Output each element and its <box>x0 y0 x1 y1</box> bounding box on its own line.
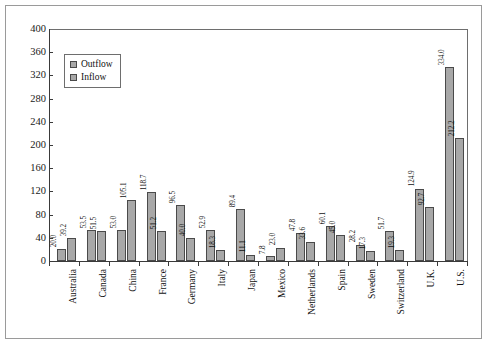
bar-value-label: 19.3 <box>389 236 396 248</box>
bar-value-label: 124.9 <box>409 171 416 187</box>
bar-value-label: 20.0 <box>51 235 58 247</box>
bar-outflow[interactable] <box>117 230 126 261</box>
bar-inflow[interactable] <box>97 231 106 261</box>
bar-inflow[interactable] <box>366 251 375 261</box>
bar-value-label: 45.0 <box>329 221 336 233</box>
x-axis-category-label: Netherlands <box>308 269 318 315</box>
x-axis-tick-mark <box>198 262 199 266</box>
x-axis-category-label: U.K. <box>427 269 437 287</box>
bar-group: 118.751.2 <box>147 29 167 261</box>
y-axis-tick-label: 240 <box>12 117 46 128</box>
bar-group: 52.918.3 <box>206 29 226 261</box>
bar-value-label: 51.2 <box>150 217 157 229</box>
bar-inflow[interactable] <box>336 235 345 261</box>
x-axis-category-label: Australia <box>69 269 79 304</box>
bar-value-label: 89.4 <box>230 195 237 207</box>
bar-outflow[interactable] <box>445 67 454 261</box>
y-axis-tick-label: 400 <box>12 24 46 35</box>
bar-value-label: 7.8 <box>260 246 267 255</box>
bar-group: 89.411.1 <box>236 29 256 261</box>
bar-inflow[interactable] <box>216 250 225 261</box>
bar-value-label: 334.0 <box>439 50 446 66</box>
bar-value-label: 28.2 <box>349 230 356 242</box>
bar-value-label: 53.5 <box>81 216 88 228</box>
bar-group: 124.992.7 <box>415 29 435 261</box>
bar-value-label: 60.1 <box>319 212 326 224</box>
bar-value-label: 40.0 <box>180 224 187 236</box>
x-axis-tick-mark <box>109 262 110 266</box>
x-axis-category-label: Canada <box>99 269 109 298</box>
x-axis-tick-mark <box>407 262 408 266</box>
bar-value-label: 39.2 <box>61 224 68 236</box>
x-axis-category-label: Switzerland <box>397 269 407 314</box>
bar-outflow[interactable] <box>87 230 96 261</box>
bar-inflow[interactable] <box>157 231 166 261</box>
bar-group: 60.145.0 <box>326 29 346 261</box>
bar-inflow[interactable] <box>425 207 434 261</box>
legend-label: Inflow <box>81 71 106 84</box>
x-axis-tick-mark <box>168 262 169 266</box>
y-axis-tick-label: 80 <box>12 209 46 220</box>
bar-outflow[interactable] <box>57 249 66 261</box>
bar-value-label: 96.5 <box>170 191 177 203</box>
x-axis-tick-mark <box>467 262 468 266</box>
x-axis-tick-mark <box>348 262 349 266</box>
bar-value-label: 18.3 <box>210 236 217 248</box>
bar-inflow[interactable] <box>306 242 315 261</box>
bar-value-label: 52.9 <box>200 216 207 228</box>
bar-outflow[interactable] <box>266 256 275 261</box>
x-axis-category-label: Italy <box>218 269 228 286</box>
x-axis-category-label: Japan <box>248 269 258 291</box>
bar-group: 28.217.3 <box>356 29 376 261</box>
bar-inflow[interactable] <box>395 250 404 261</box>
x-axis-tick-mark <box>49 262 50 266</box>
bar-value-label: 105.1 <box>120 182 127 198</box>
bar-group: 7.823.0 <box>266 29 286 261</box>
bar-value-label: 47.8 <box>290 219 297 231</box>
bar-value-label: 51.5 <box>91 217 98 229</box>
bar-inflow[interactable] <box>67 238 76 261</box>
y-axis-tick-label: 280 <box>12 93 46 104</box>
y-axis-tick-label: 200 <box>12 140 46 151</box>
x-axis-tick-mark <box>318 262 319 266</box>
legend-label: Outflow <box>81 58 113 71</box>
bar-group: 96.540.0 <box>176 29 196 261</box>
bar-group: 334.0212.2 <box>445 29 465 261</box>
y-axis-tick-label: 120 <box>12 186 46 197</box>
x-axis-tick-mark <box>139 262 140 266</box>
bar-value-label: 11.1 <box>240 241 247 253</box>
bar-inflow[interactable] <box>276 248 285 261</box>
bar-inflow[interactable] <box>186 238 195 261</box>
y-axis-tick-label: 360 <box>12 47 46 58</box>
bar-value-label: 118.7 <box>140 175 147 190</box>
bar-value-label: 212.2 <box>449 120 456 136</box>
bar-group: 51.719.3 <box>385 29 405 261</box>
bar-group: 47.833.6 <box>296 29 316 261</box>
bar-value-label: 23.0 <box>270 233 277 245</box>
bar-inflow[interactable] <box>127 200 136 261</box>
y-axis-tick-label: 0 <box>12 256 46 267</box>
x-axis-category-label: U.S. <box>457 269 467 286</box>
x-axis-tick-mark <box>258 262 259 266</box>
x-axis-tick-mark <box>377 262 378 266</box>
y-axis-tick-label: 40 <box>12 233 46 244</box>
y-axis-tick-label: 320 <box>12 70 46 81</box>
y-axis-labels: 04080120160200240280320360400 <box>6 6 46 345</box>
x-axis-category-label: Sweden <box>368 269 378 299</box>
bar-inflow[interactable] <box>455 138 464 261</box>
y-axis-tick-label: 160 <box>12 163 46 174</box>
x-axis-tick-mark <box>228 262 229 266</box>
legend-item-inflow: Inflow <box>70 71 113 84</box>
x-axis-category-label: Germany <box>188 269 198 304</box>
bar-value-label: 17.3 <box>359 237 366 249</box>
bar-inflow[interactable] <box>246 255 255 261</box>
legend-item-outflow: Outflow <box>70 58 113 71</box>
bar-outflow[interactable] <box>236 209 245 261</box>
x-axis-tick-mark <box>437 262 438 266</box>
x-axis-category-label: France <box>159 269 169 295</box>
chart-frame: 04080120160200240280320360400 20.039.253… <box>5 5 482 339</box>
bar-value-label: 92.7 <box>419 193 426 205</box>
bar-value-label: 33.6 <box>300 227 307 239</box>
bar-value-label: 51.7 <box>379 217 386 229</box>
x-axis-category-label: Mexico <box>278 269 288 298</box>
